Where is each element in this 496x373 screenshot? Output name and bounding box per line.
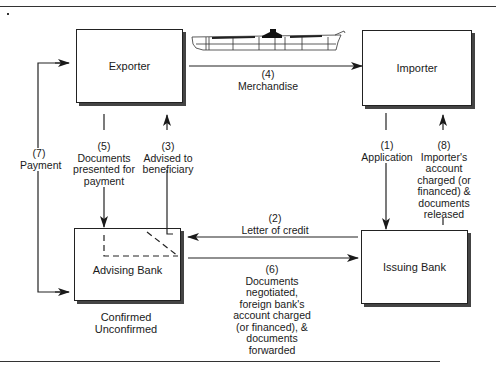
flow-8-line: released [416, 209, 472, 221]
exporter-label: Exporter [109, 60, 151, 72]
flow-3-line: beneficiary [140, 164, 196, 176]
flow-1-text: Application [360, 152, 414, 164]
flow-4-label: (4) Merchandise [228, 69, 308, 92]
flow-7-label: (7) Payment [20, 148, 58, 171]
flow-8-line: financed) & [416, 186, 472, 198]
flow-8-label: (8) Importer's account charged (or finan… [416, 140, 472, 221]
flow-5-label: (5) Documents presented for payment [72, 141, 136, 187]
flow-5-step: (5) [72, 141, 136, 153]
flow-4-text: Merchandise [228, 81, 308, 93]
flow-2-text: Letter of credit [230, 225, 320, 237]
caption-confirmed: Confirmed [90, 311, 162, 323]
importer-node: Importer [362, 30, 472, 106]
flow-3-label: (3) Advised to beneficiary [140, 141, 196, 176]
advising-bank-caption: Confirmed Unconfirmed [90, 311, 162, 335]
importer-label: Importer [397, 62, 438, 74]
flow-2-step: (2) [230, 213, 320, 225]
flow-5-line: presented for [72, 164, 136, 176]
flow-6-line: negotiated, [230, 287, 314, 299]
flow-6-step: (6) [230, 264, 314, 276]
flow-6-line: documents [230, 333, 314, 345]
caption-unconfirmed: Unconfirmed [90, 323, 162, 335]
flow-8-line: account [416, 163, 472, 175]
flow-7-text: Payment [20, 160, 58, 172]
flow-1-label: (1) Application [360, 140, 414, 163]
flow-6-line: forwarded [230, 345, 314, 357]
flow-8-step: (8) [416, 140, 472, 152]
flow-3-step: (3) [140, 141, 196, 153]
flow-6-label: (6) Documents negotiated, foreign bank's… [230, 264, 314, 356]
flow-2-label: (2) Letter of credit [230, 213, 320, 236]
advising-bank-label: Advising Bank [93, 264, 163, 276]
flow-6-line: account charged [230, 310, 314, 322]
flow-4-step: (4) [228, 69, 308, 81]
exporter-node: Exporter [76, 29, 183, 103]
flow-1-step: (1) [360, 140, 414, 152]
issuing-bank-label: Issuing Bank [383, 261, 446, 273]
advising-bank-node: Advising Bank [74, 228, 181, 301]
issuing-bank-node: Issuing Bank [361, 230, 468, 304]
flow-7-step: (7) [20, 148, 58, 160]
flow-5-line: payment [72, 176, 136, 188]
